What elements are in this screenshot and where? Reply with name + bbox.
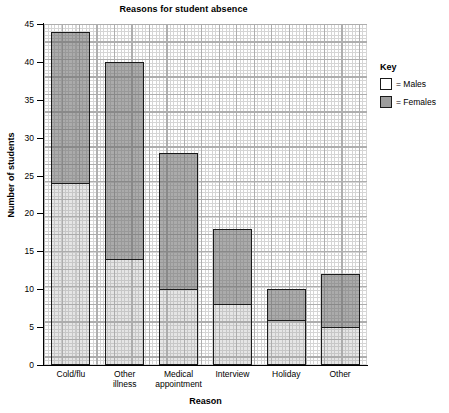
chart-figure: Reasons for student absence 051015202530… bbox=[0, 0, 449, 413]
y-axis-tick-label: 35 bbox=[0, 96, 34, 104]
y-axis-title: Number of students bbox=[6, 115, 16, 235]
y-axis-tick bbox=[37, 213, 43, 214]
y-axis-tick bbox=[37, 138, 43, 139]
bar-segment-females bbox=[321, 274, 360, 328]
legend-title: Key bbox=[380, 62, 449, 72]
bar-cold-flu bbox=[51, 32, 90, 365]
legend-label: = Males bbox=[396, 79, 426, 89]
x-axis-tick-label: Holiday bbox=[259, 369, 313, 379]
y-axis-tick-label: 0 bbox=[0, 361, 34, 369]
bar-segment-females bbox=[51, 32, 90, 185]
y-axis-tick bbox=[37, 176, 43, 177]
bar-medical-appointment bbox=[159, 153, 198, 365]
legend-item-female: = Females bbox=[380, 94, 449, 109]
x-axis-tick-label: Interview bbox=[206, 369, 260, 379]
bar-segment-males bbox=[321, 327, 360, 365]
bar-other-illness bbox=[105, 62, 144, 365]
y-axis-tick-label: 45 bbox=[0, 20, 34, 28]
x-axis-title: Reason bbox=[44, 396, 367, 406]
y-axis-tick-label: 5 bbox=[0, 323, 34, 331]
bar-segment-males bbox=[51, 183, 90, 365]
legend-swatch-male-icon bbox=[380, 78, 392, 90]
y-axis-tick bbox=[37, 62, 43, 63]
legend-item-male: = Males bbox=[380, 76, 449, 91]
bar-segment-females bbox=[213, 229, 252, 306]
legend-rows: = Males= Females bbox=[380, 76, 449, 109]
x-axis-line bbox=[43, 365, 368, 366]
y-axis-tick bbox=[37, 100, 43, 101]
y-axis-tick bbox=[37, 251, 43, 252]
bar-segment-males bbox=[105, 259, 144, 365]
bar-interview bbox=[213, 229, 252, 365]
x-axis-tick-label: Otherillness bbox=[98, 369, 152, 389]
x-axis-tick-label: Cold/flu bbox=[44, 369, 98, 379]
bar-holiday bbox=[267, 289, 306, 365]
legend-swatch-female-icon bbox=[380, 96, 392, 108]
bar-segment-males bbox=[267, 320, 306, 365]
plot-area bbox=[44, 24, 367, 365]
bar-segment-females bbox=[267, 289, 306, 320]
legend: Key = Males= Females bbox=[380, 62, 449, 112]
y-axis-tick bbox=[37, 365, 43, 366]
y-axis-tick bbox=[37, 289, 43, 290]
bar-segment-females bbox=[159, 153, 198, 290]
bar-segment-males bbox=[213, 304, 252, 365]
y-axis-tick-label: 15 bbox=[0, 247, 34, 255]
y-axis-tick-label: 10 bbox=[0, 285, 34, 293]
y-axis-tick bbox=[37, 327, 43, 328]
bar-segment-females bbox=[105, 62, 144, 260]
chart-title: Reasons for student absence bbox=[0, 4, 367, 14]
y-axis-line bbox=[43, 23, 44, 366]
bar-other bbox=[321, 274, 360, 365]
y-axis-tick-label: 40 bbox=[0, 58, 34, 66]
x-axis-tick-label: Other bbox=[313, 369, 367, 379]
y-axis-tick bbox=[37, 24, 43, 25]
bar-segment-males bbox=[159, 289, 198, 365]
x-axis-tick-label: Medicalappointment bbox=[152, 369, 206, 389]
legend-label: = Females bbox=[396, 97, 436, 107]
